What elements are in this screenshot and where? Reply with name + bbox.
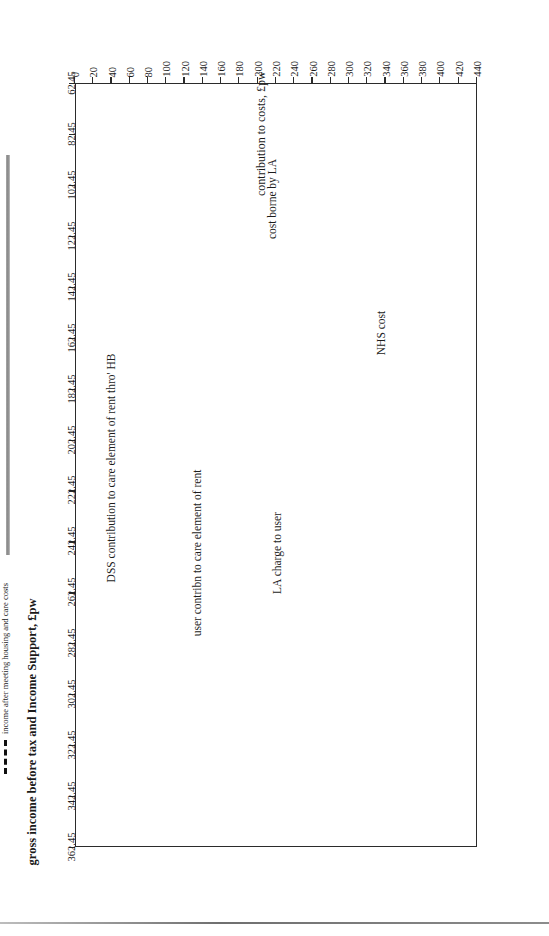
y-axis-tick-label: 280 [325,61,336,77]
y-axis-tick-label: 320 [361,61,372,77]
band-label-user-contribn: user contribn to care element of rent [191,470,203,637]
y-axis-tick [110,77,111,83]
y-axis-tick-label: 420 [453,61,464,77]
x-axis-tick-label: 342.45 [66,782,77,811]
y-axis-tick-label: 220 [270,61,281,77]
x-axis-tick-label: 142.45 [66,272,77,301]
y-axis-tick [201,77,202,83]
y-axis-tick [165,77,166,83]
y-axis-tick-label: 20 [87,67,98,78]
y-axis-tick [220,77,221,83]
y-axis-tick [421,77,422,83]
y-axis-tick-label: 260 [307,61,318,77]
y-axis-tick-label: 120 [179,61,190,77]
y-axis-tick [311,77,312,83]
y-axis-tick-label: 180 [233,61,244,77]
y-axis-tick [347,77,348,83]
y-axis-tick-label: 140 [197,61,208,77]
y-axis-tick [366,77,367,83]
scan-edge-artifact-bottom [0,922,549,924]
y-axis-tick [146,77,147,83]
x-axis-tick-label: 362.45 [66,833,77,862]
y-axis-tick [384,77,385,83]
x-axis-tick-label: 302.45 [66,680,77,709]
y-axis-tick-label: 400 [434,61,445,77]
y-axis-tick-label: 40 [106,67,117,78]
y-axis-tick-label: 160 [215,61,226,77]
x-axis-tick-label: 162.45 [66,323,77,352]
x-axis-tick-label: 282.45 [66,629,77,658]
y-axis-tick [402,77,403,83]
chart-plot-area: NHS cost cost borne by LA LA charge to u… [75,83,477,847]
y-axis-tick-label: 440 [471,61,482,77]
x-axis-tick-label: 322.45 [66,731,77,760]
y-axis-tick [92,77,93,83]
x-axis-tick-label: 122.45 [66,221,77,250]
band-label-nhs-cost: NHS cost [375,311,387,355]
y-axis-tick [73,77,74,83]
figure-page: NHS cost cost borne by LA LA charge to u… [0,0,549,936]
x-axis-tick-label: 182.45 [66,374,77,403]
y-axis-tick [457,77,458,83]
x-axis-title: gross income before tax and Income Suppo… [24,598,39,865]
y-axis-tick-label: 240 [288,61,299,77]
y-axis-tick [439,77,440,83]
dashed-line-swatch-icon [3,740,6,774]
x-axis-tick-label: 102.45 [66,170,77,199]
legend-label-income-after: income after meeting housing and care co… [0,583,10,734]
band-label-la-charge-to-user: LA charge to user [271,512,283,594]
band-label-dss-contribution: DSS contribution to care element of rent… [105,354,117,583]
x-axis-tick-label: 202.45 [66,425,77,454]
scan-edge-artifact-left [6,155,10,555]
y-axis-tick [128,77,129,83]
x-axis-tick-label: 262.45 [66,578,77,607]
x-axis-tick-label: 242.45 [66,527,77,556]
y-axis-title: contribution to costs, £pw [253,71,268,196]
y-axis-tick-label: 60 [124,67,135,78]
y-axis-tick [475,77,476,83]
y-axis-tick-label: 80 [142,67,153,78]
y-axis-tick [183,77,184,83]
y-axis-tick-label: 340 [380,61,391,77]
legend: income after meeting housing and care co… [0,583,10,774]
x-axis-tick-label: 222.45 [66,476,77,505]
y-axis-tick-label: 360 [398,61,409,77]
y-axis-tick-label: 100 [160,61,171,77]
y-axis-tick [274,77,275,83]
y-axis-tick-label: 380 [416,61,427,77]
y-axis-tick-label: 300 [343,61,354,77]
y-axis-tick [329,77,330,83]
x-axis-tick-label: 82.45 [66,122,77,146]
y-axis-tick-label: 0 [69,72,80,77]
y-axis-tick [238,77,239,83]
y-axis-tick [293,77,294,83]
rotated-chart-container: NHS cost cost borne by LA LA charge to u… [73,83,477,853]
